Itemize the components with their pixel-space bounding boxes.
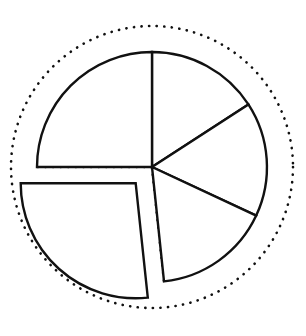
pie-chart-canvas [0,0,306,336]
pie-slice-5[interactable] [37,52,152,167]
pie-slice-4-exploded[interactable] [21,183,148,298]
pie-chart-figure [0,0,306,336]
